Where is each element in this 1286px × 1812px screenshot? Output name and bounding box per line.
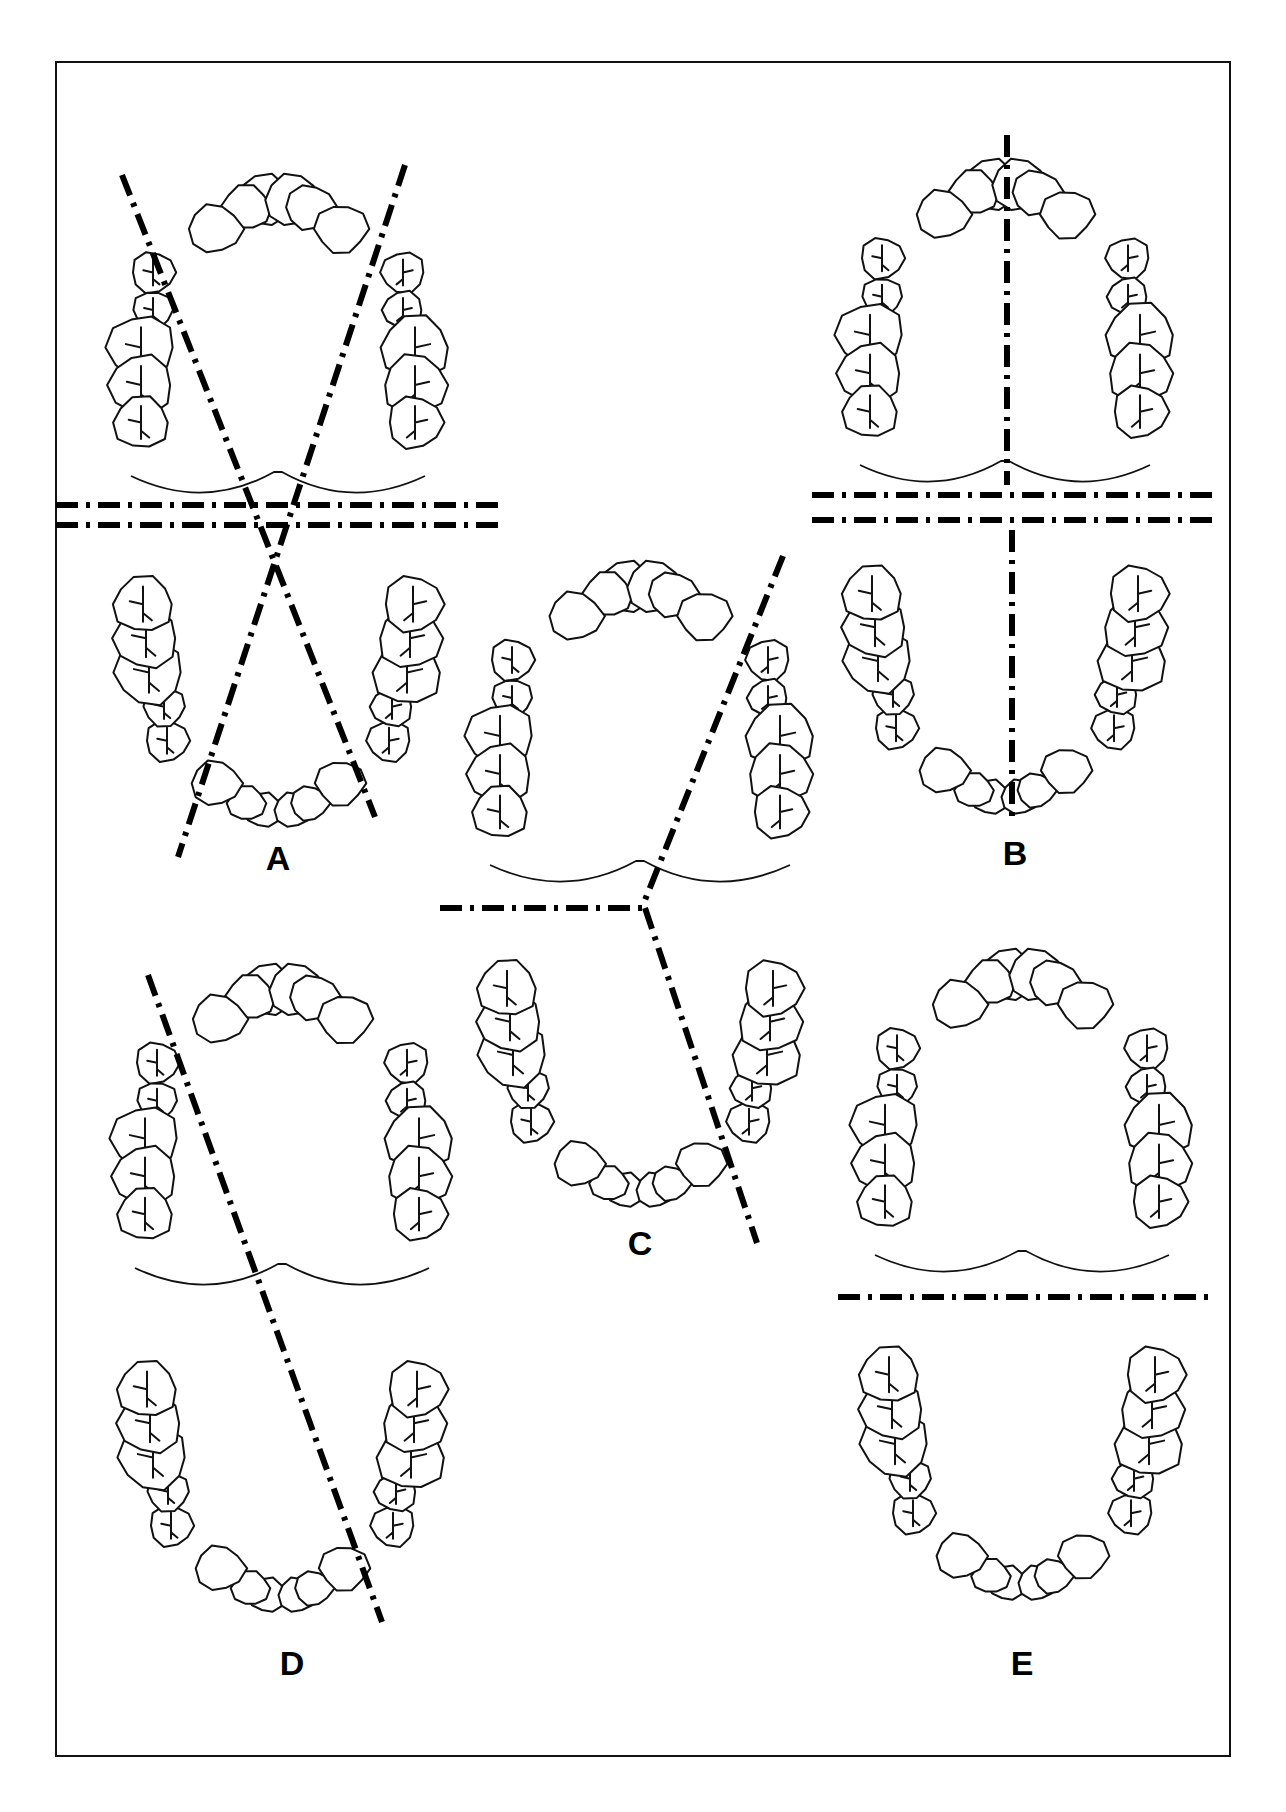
panel-label: E [1011, 1644, 1034, 1682]
lower-arch-D [116, 1361, 449, 1612]
posterior-tooth [384, 1043, 427, 1084]
panel-C: C [440, 556, 813, 1262]
dental-arch-sectioning-diagram: ABCDE [0, 0, 1286, 1812]
panel-B: B [812, 135, 1212, 872]
posterior-tooth [1124, 1029, 1167, 1070]
anterior-tooth [318, 997, 374, 1043]
posterior-tooth [1091, 709, 1134, 750]
posterior-tooth [745, 640, 788, 681]
lower-arch-B [841, 565, 1170, 813]
posterior-tooth [492, 640, 535, 681]
panel-label: D [280, 1644, 305, 1682]
lower-arch-A [112, 576, 445, 827]
posterior-tooth [1108, 1494, 1151, 1535]
palate-outline [875, 1251, 1169, 1272]
posterior-tooth [726, 1102, 769, 1143]
posterior-tooth [893, 1493, 936, 1534]
upper-arch-E [849, 949, 1192, 1272]
anterior-tooth [1058, 982, 1114, 1028]
posterior-tooth [137, 1043, 180, 1084]
posterior-tooth [370, 1506, 413, 1547]
anterior-tooth [1040, 192, 1095, 238]
panel-label: C [628, 1224, 653, 1262]
posterior-tooth [1105, 239, 1148, 280]
panel-D: D [109, 964, 452, 1682]
palate-outline [135, 1264, 429, 1285]
lower-arch-E [858, 1346, 1187, 1599]
lower-arch-C [476, 960, 805, 1207]
posterior-tooth [862, 238, 905, 279]
posterior-tooth [366, 721, 409, 762]
panel-label: A [266, 839, 291, 877]
upper-arch-D [109, 964, 452, 1285]
section-cut-line [178, 165, 405, 857]
panel-A: A [56, 165, 500, 877]
posterior-tooth [380, 253, 423, 294]
panel-label: B [1003, 834, 1028, 872]
upper-arch-B [834, 159, 1173, 482]
posterior-tooth [877, 1028, 920, 1069]
panels-group: ABCDE [56, 135, 1212, 1682]
palate-outline [131, 472, 425, 493]
upper-arch-A [105, 174, 448, 493]
palate-outline [490, 861, 790, 882]
anterior-tooth [677, 594, 732, 640]
anterior-tooth [314, 207, 370, 253]
panel-E: E [838, 949, 1212, 1682]
